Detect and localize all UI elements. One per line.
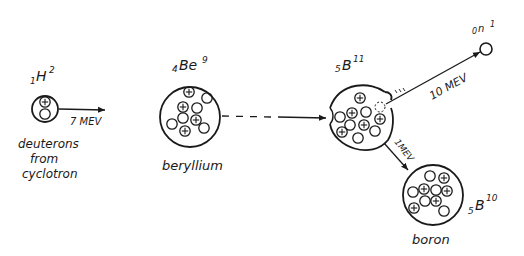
beryllium-nucleus [160,87,220,147]
deuteron-symbol-sup: 2 [49,65,55,75]
boron10-energy: 1MEV [392,137,416,164]
compound-group: 5 B 11 [330,54,393,150]
beryllium-symbol-sub: 4 [172,64,178,74]
compound-symbol: B [342,57,352,73]
emission-ticks [395,88,405,93]
incoming-path [222,116,326,118]
boron10-group: 1MEV 5 B 10 boron [384,137,498,247]
deuteron-symbol-sub: 1 [30,76,36,86]
reaction-diagram: 1 H 2 7 MEV deuterons from cyclotron 4 B… [0,0,524,256]
compound-nucleus [330,85,393,150]
boron10-symbol-sup: 10 [486,193,498,203]
deuteron-caption-line-3: cyclotron [22,167,78,181]
boron10-symbol-sub: 5 [468,206,474,216]
deuteron-caption-line-2: from [30,152,58,166]
boron10-caption: boron [412,232,450,247]
compound-symbol-sup: 11 [353,54,364,64]
deuteron-arrow [59,109,105,110]
deuteron-group: 1 H 2 7 MEV deuterons from cyclotron [18,65,105,181]
boron10-nucleus [403,165,463,225]
deuteron-nucleus [32,96,58,122]
neutron-symbol-sup: 1 [490,20,495,29]
boron10-symbol: B [475,197,485,213]
escaping-neutron-ghost [375,102,385,112]
neutron-particle [480,43,492,55]
beryllium-symbol: Be [179,57,197,73]
neutron-symbol-sub: 0 [472,27,477,36]
beryllium-group: 4 Be 9 beryllium [160,55,223,173]
beryllium-symbol-sup: 9 [202,55,208,65]
beryllium-caption: beryllium [162,158,223,173]
neutron-symbol: n [478,23,484,34]
deuteron-caption-line-1: deuterons [18,137,79,151]
neutron-energy: 10 MEV [427,70,471,102]
compound-symbol-sub: 5 [335,64,341,74]
deuteron-energy: 7 MEV [70,116,102,127]
neutron-group: 0 n 1 10 MEV [386,20,495,104]
deuteron-symbol: H [36,68,47,84]
